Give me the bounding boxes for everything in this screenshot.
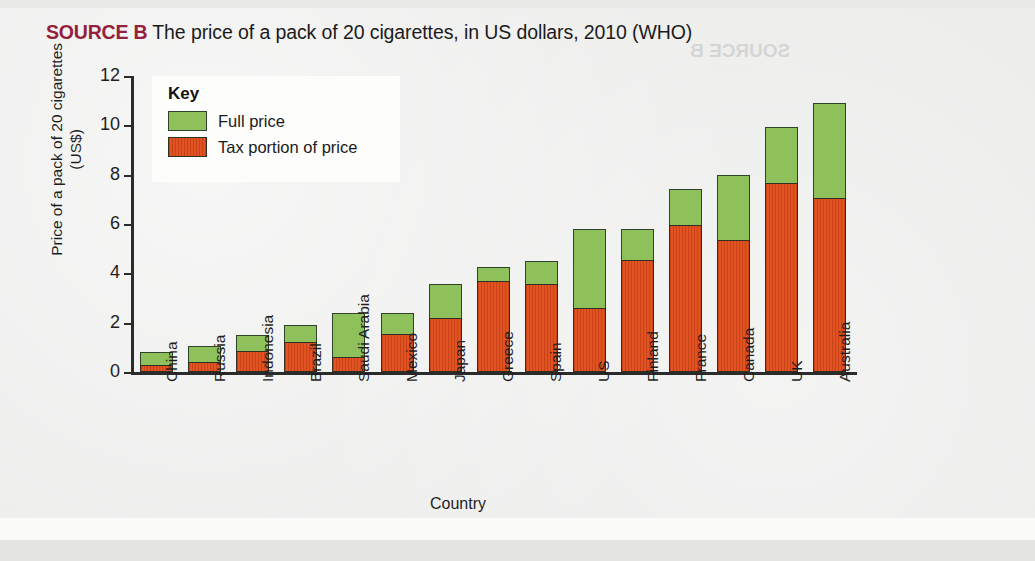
y-axis-tick — [124, 372, 132, 374]
x-axis-tick-label: Japan — [451, 340, 469, 382]
x-axis-tick-label: Spain — [547, 342, 565, 382]
y-axis-tick-label: 2 — [84, 312, 120, 333]
y-axis-tick-label: 10 — [84, 114, 120, 135]
y-axis-tick — [124, 323, 132, 325]
bar-us — [573, 229, 606, 372]
y-axis-tick — [124, 175, 132, 177]
x-axis-tick-label: Finland — [644, 331, 662, 382]
x-axis-tick-label: Brazil — [307, 343, 325, 382]
legend-item-tax-portion: Tax portion of price — [168, 137, 400, 157]
green-swatch-icon — [168, 111, 207, 131]
stacked-bar-chart: Price of a pack of 20 cigarettes (US$) C… — [0, 0, 1035, 561]
x-axis-tick-label: Mexico — [403, 333, 421, 382]
y-axis-label: Price of a pack of 20 cigarettes (US$) — [47, 24, 86, 274]
chart-legend: Key Full price Tax portion of price — [152, 76, 400, 182]
x-axis-label: Country — [430, 495, 486, 513]
y-axis-tick-label: 12 — [84, 65, 120, 86]
y-axis-tick — [124, 273, 132, 275]
y-axis-tick — [124, 224, 132, 226]
x-axis-tick-label: France — [692, 334, 710, 382]
bar-segment-tax-portion — [765, 183, 798, 372]
legend-title: Key — [168, 84, 400, 104]
x-axis-tick-label: Greece — [499, 331, 517, 382]
legend-label-tax-portion: Tax portion of price — [218, 138, 357, 157]
y-axis-tick-label: 0 — [84, 361, 120, 382]
x-axis-tick-label: Canada — [740, 328, 758, 382]
red-swatch-icon — [168, 137, 207, 157]
page-background: SOURCE B SOURCE B The price of a pack of… — [0, 0, 1035, 561]
legend-item-full-price: Full price — [168, 111, 400, 131]
y-axis-tick — [124, 76, 132, 78]
y-axis-tick-label: 6 — [84, 213, 120, 234]
legend-label-full-price: Full price — [218, 112, 285, 131]
x-axis-tick-label: China — [163, 342, 181, 383]
y-axis-tick — [124, 125, 132, 127]
x-axis-tick-label: Indonesia — [259, 315, 277, 382]
bar-uk — [765, 127, 798, 372]
x-axis-tick-label: Australia — [836, 322, 854, 382]
y-axis-tick-label: 8 — [84, 164, 120, 185]
x-axis-tick-label: Saudi Arabia — [355, 294, 373, 382]
x-axis-tick-label: US — [595, 360, 613, 382]
y-axis-tick-label: 4 — [84, 262, 120, 283]
x-axis-tick-label: Russia — [211, 335, 229, 382]
x-axis-tick-label: UK — [788, 360, 806, 382]
